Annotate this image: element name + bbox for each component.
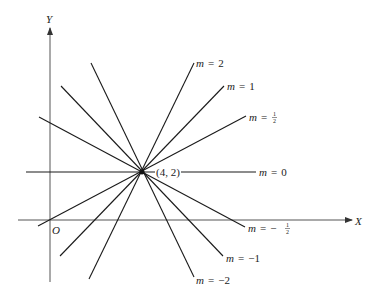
svg-text:m=−1: m=−1 <box>226 252 260 264</box>
x-axis-label: X <box>354 215 363 227</box>
slope-label-neg-2: m=−2 <box>196 274 230 286</box>
diagram-canvas: Y X O (4, 2) m=2 m=1 m= 1 2 m=0 m=− 1 2 … <box>0 0 377 301</box>
origin-label: O <box>52 224 60 236</box>
slope-label-neg-1: m=−1 <box>226 252 260 264</box>
svg-text:2: 2 <box>273 118 276 124</box>
svg-text:m=1: m=1 <box>227 80 255 92</box>
svg-text:1: 1 <box>273 111 276 117</box>
slope-label-1: m=1 <box>227 80 255 92</box>
slope-label-half: m= 1 2 <box>249 111 277 124</box>
slope-label-neg-half: m=− 1 2 <box>248 222 290 235</box>
svg-text:m=2: m=2 <box>196 57 224 69</box>
coordinate-plane: Y X O (4, 2) m=2 m=1 m= 1 2 m=0 m=− 1 2 … <box>0 0 377 301</box>
y-axis-label: Y <box>46 13 54 25</box>
slope-label-0: m=0 <box>259 166 287 178</box>
point-4-2-marker <box>140 170 145 175</box>
svg-text:m=−: m=− <box>248 222 276 234</box>
svg-text:2: 2 <box>286 229 289 235</box>
svg-text:m=: m= <box>249 111 267 123</box>
svg-text:m=−2: m=−2 <box>196 274 230 286</box>
svg-text:1: 1 <box>286 222 289 228</box>
svg-text:m=0: m=0 <box>259 166 287 178</box>
point-label: (4, 2) <box>156 166 180 179</box>
slope-label-2: m=2 <box>196 57 224 69</box>
